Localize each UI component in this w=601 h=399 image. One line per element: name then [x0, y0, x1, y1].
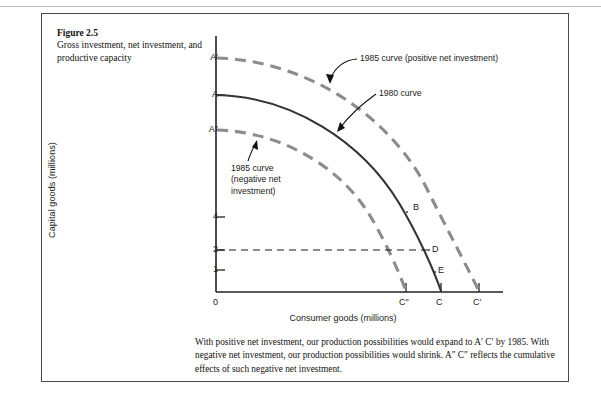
- y-tick-1: 1: [196, 264, 218, 274]
- page-top-rule: [0, 6, 601, 7]
- x-tick-c: C: [436, 297, 443, 307]
- point-label-d: D: [432, 244, 439, 254]
- point-label-e: E: [438, 265, 444, 275]
- figure-caption: With positive net investment, our produc…: [195, 336, 570, 376]
- y-tick-2: 2: [196, 244, 218, 254]
- annotation-negative-line-3: investment): [231, 186, 275, 196]
- annotation-negative-net-investment: 1985 curve (negative net investment): [231, 163, 323, 197]
- annotation-1980-curve: 1980 curve: [379, 88, 422, 99]
- y-axis-title: Capital goods (millions): [47, 120, 57, 260]
- annotation-negative-line-1: 1985 curve: [231, 163, 274, 173]
- figure-number: Figure 2.5: [57, 27, 217, 40]
- point-label-b: B: [413, 202, 419, 212]
- x-tick-c-double-prime: C″: [399, 297, 409, 307]
- y-tick-4: 4: [196, 211, 218, 221]
- x-axis-title: Consumer goods (millions): [238, 313, 448, 323]
- y-tick-0: 0: [196, 297, 218, 307]
- figure-box: [41, 13, 569, 382]
- annotation-negative-line-2: (negative net: [231, 174, 281, 184]
- x-tick-c-prime: C′: [473, 297, 481, 307]
- y-tick-a-double-prime: A″: [196, 124, 218, 134]
- annotation-positive-net-investment: 1985 curve (positive net investment): [360, 53, 498, 64]
- figure-title: Gross investment, net investment, and pr…: [57, 39, 207, 65]
- y-tick-a-prime: A′: [196, 52, 218, 62]
- y-tick-a: A: [196, 89, 218, 99]
